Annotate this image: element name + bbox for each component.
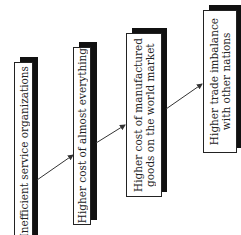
arrow-n1-to-n2	[37, 155, 73, 180]
arrow-n2-to-n3	[96, 125, 125, 143]
arrow-n3-to-n4	[166, 84, 202, 109]
edges-layer	[0, 0, 241, 235]
